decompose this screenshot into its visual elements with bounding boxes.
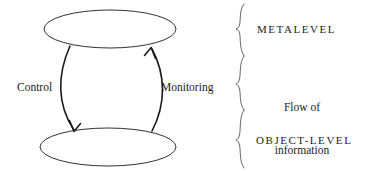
brace-metalevel xyxy=(236,4,244,56)
control-arrow xyxy=(61,46,81,132)
flow-label-line-1: Flow of xyxy=(258,100,346,114)
brace-flow xyxy=(236,56,244,110)
flow-label-line-2: information xyxy=(258,143,346,157)
control-arrow-label: Control xyxy=(17,81,52,94)
figure-root: Control Monitoring METALEVEL OBJECT-LEVE… xyxy=(0,0,370,173)
object-level-ellipse xyxy=(40,128,176,166)
monitoring-arrow-label: Monitoring xyxy=(161,81,213,94)
metalevel-ellipse xyxy=(44,10,176,48)
flow-of-information-label: Flow of information xyxy=(258,71,346,173)
brace-group xyxy=(236,4,244,168)
monitoring-arrow xyxy=(145,48,163,132)
brace-object-level xyxy=(236,110,244,168)
metalevel-label: METALEVEL xyxy=(257,23,336,35)
